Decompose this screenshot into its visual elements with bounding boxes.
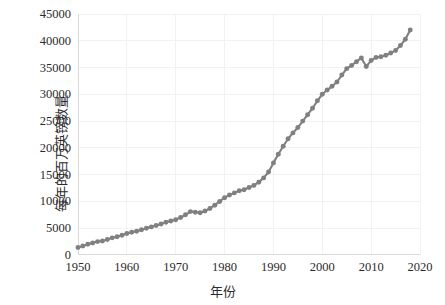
data-point: [247, 185, 252, 190]
data-point: [339, 73, 344, 78]
x-axis-tick-label: 1980: [212, 260, 237, 275]
data-point: [256, 180, 261, 185]
data-point: [388, 51, 393, 56]
data-point: [403, 37, 408, 42]
chart-container: 0500010000150002000025000300003500040000…: [0, 0, 445, 305]
data-point: [398, 43, 403, 48]
data-point: [188, 209, 193, 214]
x-axis-tick-label: 1970: [163, 260, 188, 275]
data-point: [95, 239, 100, 244]
data-point: [149, 224, 154, 229]
data-point: [354, 59, 359, 64]
x-axis-tick-label: 2000: [310, 260, 335, 275]
data-point: [105, 237, 110, 242]
data-point: [154, 223, 159, 228]
data-point: [222, 195, 227, 200]
y-axis-title: 每年的百万英镑数量: [51, 94, 70, 211]
data-point: [129, 230, 134, 235]
data-point: [163, 220, 168, 225]
data-point: [144, 226, 149, 231]
data-point: [237, 188, 242, 193]
data-point: [124, 231, 129, 236]
data-series: [78, 14, 420, 255]
data-point: [271, 160, 276, 165]
data-point: [227, 193, 232, 198]
data-point: [315, 98, 320, 103]
data-point: [178, 215, 183, 220]
data-point: [80, 243, 85, 248]
data-point: [139, 227, 144, 232]
x-axis-tick-label: 2020: [408, 260, 433, 275]
data-point: [203, 209, 208, 214]
y-axis-tick-label: 0: [6, 248, 71, 263]
y-axis-tick-label: 40000: [6, 33, 71, 48]
data-point: [364, 64, 369, 69]
data-point: [334, 80, 339, 85]
data-point: [115, 234, 120, 239]
data-point: [193, 210, 198, 215]
y-axis-tick-label: 5000: [6, 221, 71, 236]
data-point: [295, 125, 300, 130]
data-point: [378, 54, 383, 59]
data-point: [212, 203, 217, 208]
data-point: [119, 233, 124, 238]
data-point: [369, 58, 374, 63]
x-axis-tick-label: 1990: [261, 260, 286, 275]
y-axis-tick-label: 35000: [6, 60, 71, 75]
x-axis-tick-label: 1950: [66, 260, 91, 275]
data-point: [173, 217, 178, 222]
data-point: [305, 112, 310, 117]
data-point: [134, 229, 139, 234]
x-axis-tick-label: 2010: [359, 260, 384, 275]
data-point: [183, 212, 188, 217]
data-point: [344, 66, 349, 71]
data-point: [286, 136, 291, 141]
data-point: [320, 92, 325, 97]
data-point: [290, 130, 295, 135]
data-point: [85, 242, 90, 247]
data-point: [310, 106, 315, 111]
data-point: [408, 28, 413, 33]
data-point: [281, 144, 286, 149]
data-point: [217, 199, 222, 204]
x-axis-title: 年份: [0, 281, 445, 300]
data-point: [383, 53, 388, 58]
data-point: [349, 63, 354, 68]
data-point: [261, 175, 266, 180]
data-point: [90, 240, 95, 245]
data-point: [100, 239, 105, 244]
data-point: [232, 190, 237, 195]
data-point: [393, 48, 398, 53]
data-point: [76, 245, 81, 250]
data-point: [325, 88, 330, 93]
data-point: [359, 55, 364, 60]
data-point: [242, 187, 247, 192]
data-point: [168, 219, 173, 224]
data-point: [110, 235, 115, 240]
data-point: [330, 84, 335, 89]
data-point: [300, 119, 305, 124]
data-point: [251, 183, 256, 188]
x-axis-tick-label: 1960: [114, 260, 139, 275]
data-point: [207, 206, 212, 211]
data-point: [276, 152, 281, 157]
plot-area: [78, 14, 420, 255]
data-point: [198, 210, 203, 215]
data-point: [374, 55, 379, 60]
data-point: [159, 221, 164, 226]
y-axis-tick-label: 45000: [6, 7, 71, 22]
data-point: [266, 170, 271, 175]
